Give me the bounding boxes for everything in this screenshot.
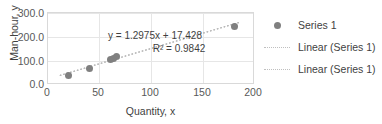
x-tick-label: 100	[136, 86, 164, 98]
chart-legend: Series 1 Linear (Series 1) Linear (Serie…	[262, 14, 380, 80]
legend-dotted-line-icon	[262, 47, 292, 48]
regression-r-squared: R² = 0.9842	[106, 42, 236, 55]
legend-label: Linear (Series 1)	[292, 63, 376, 75]
x-tick-label: 0	[33, 86, 61, 98]
plot-area: y = 1.2975x + 17.428 R² = 0.9842	[47, 12, 254, 84]
x-tick-label: 150	[188, 86, 216, 98]
x-tick-label: 50	[84, 86, 112, 98]
regression-equation: y = 1.2975x + 17.428	[106, 29, 236, 42]
legend-marker-dot-icon	[262, 22, 292, 29]
scatter-chart: Man-hour, y 300.0 200.0 100.0 0.0 y = 1.…	[0, 0, 382, 124]
y-axis-tick-labels: 300.0 200.0 100.0 0.0	[4, 0, 44, 124]
x-axis-title: Quantity, x	[47, 105, 254, 119]
legend-label: Linear (Series 1)	[292, 41, 376, 53]
x-tick-label: 200	[239, 86, 267, 98]
legend-item-linear-1[interactable]: Linear (Series 1)	[262, 36, 380, 58]
y-tick-label: 300.0	[6, 7, 44, 19]
y-tick-label: 200.0	[6, 31, 44, 43]
regression-annotation: y = 1.2975x + 17.428 R² = 0.9842	[106, 29, 236, 55]
legend-item-linear-2[interactable]: Linear (Series 1)	[262, 58, 380, 80]
data-point	[86, 65, 93, 72]
y-tick-label: 100.0	[6, 55, 44, 67]
legend-item-series-1[interactable]: Series 1	[262, 14, 380, 36]
legend-label: Series 1	[292, 19, 337, 31]
legend-dotted-line-icon	[262, 69, 292, 70]
